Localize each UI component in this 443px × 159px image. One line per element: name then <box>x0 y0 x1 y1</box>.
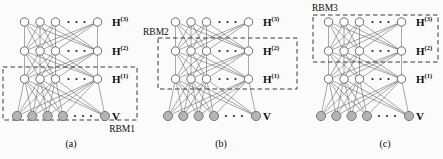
hidden-node <box>324 75 332 83</box>
ellipsis-dot <box>379 50 381 52</box>
hidden-node <box>202 47 210 55</box>
rbm-stacking-figure: H(3)H(2)H(1)VRBM1(a)H(3)H(2)H(1)VRBM2(b)… <box>0 0 443 159</box>
hidden-node <box>20 47 28 55</box>
rbm-label-a: RBM1 <box>109 124 135 134</box>
hidden-node <box>20 75 28 83</box>
hidden-node <box>171 47 179 55</box>
visible-node <box>58 111 67 120</box>
hidden-node <box>397 47 405 55</box>
ellipsis-dot <box>226 78 228 80</box>
visible-node <box>100 111 109 120</box>
ellipsis-dot <box>74 115 76 117</box>
ellipsis-dot <box>241 115 243 117</box>
hidden-node <box>324 47 332 55</box>
hidden-node <box>51 75 59 83</box>
ellipsis-dot <box>67 21 69 23</box>
hidden-node <box>355 47 363 55</box>
ellipsis-dot <box>75 78 77 80</box>
ellipsis-dot <box>225 115 227 117</box>
ellipsis-dot <box>75 21 77 23</box>
ellipsis-dot <box>371 78 373 80</box>
hidden-node <box>397 75 405 83</box>
hidden-node <box>171 75 179 83</box>
ellipsis-dot <box>234 21 236 23</box>
hidden-node <box>51 18 59 26</box>
panel-caption-c: (c) <box>379 138 390 150</box>
hidden-node <box>244 47 252 55</box>
visible-node <box>209 111 218 120</box>
figure-background <box>0 0 443 159</box>
hidden-node <box>36 18 44 26</box>
hidden-node <box>244 18 252 26</box>
ellipsis-dot <box>83 21 85 23</box>
rbm-label-b: RBM2 <box>143 27 169 37</box>
ellipsis-dot <box>233 115 235 117</box>
ellipsis-dot <box>226 21 228 23</box>
ellipsis-dot <box>378 115 380 117</box>
hidden-node <box>340 47 348 55</box>
ellipsis-dot <box>234 50 236 52</box>
layer-label-v-a: V <box>112 110 120 122</box>
hidden-node <box>20 18 28 26</box>
layer-label-v-b: V <box>263 110 271 122</box>
ellipsis-dot <box>226 50 228 52</box>
visible-node <box>12 111 21 120</box>
visible-node <box>362 111 371 120</box>
ellipsis-dot <box>234 78 236 80</box>
ellipsis-dot <box>371 21 373 23</box>
rbm-label-c: RBM3 <box>312 3 338 13</box>
visible-node <box>251 111 260 120</box>
ellipsis-dot <box>218 50 220 52</box>
hidden-node <box>324 18 332 26</box>
hidden-node <box>51 47 59 55</box>
ellipsis-dot <box>90 115 92 117</box>
ellipsis-dot <box>218 78 220 80</box>
visible-node <box>163 111 172 120</box>
hidden-node <box>202 75 210 83</box>
ellipsis-dot <box>387 78 389 80</box>
ellipsis-dot <box>83 50 85 52</box>
ellipsis-dot <box>387 50 389 52</box>
hidden-node <box>93 47 101 55</box>
ellipsis-dot <box>386 115 388 117</box>
hidden-node <box>187 47 195 55</box>
hidden-node <box>171 18 179 26</box>
visible-node <box>179 111 188 120</box>
hidden-node <box>340 18 348 26</box>
hidden-node <box>187 18 195 26</box>
ellipsis-dot <box>83 78 85 80</box>
ellipsis-dot <box>379 21 381 23</box>
dbn-rbm-diagram: H(3)H(2)H(1)VRBM1(a)H(3)H(2)H(1)VRBM2(b)… <box>0 0 443 159</box>
ellipsis-dot <box>67 50 69 52</box>
ellipsis-dot <box>394 115 396 117</box>
layer-label-v-c: V <box>416 110 424 122</box>
visible-node <box>316 111 325 120</box>
ellipsis-dot <box>371 50 373 52</box>
hidden-node <box>93 75 101 83</box>
hidden-node <box>36 75 44 83</box>
hidden-node <box>244 75 252 83</box>
visible-node <box>404 111 413 120</box>
hidden-node <box>340 75 348 83</box>
panel-caption-b: (b) <box>215 138 227 150</box>
hidden-node <box>93 18 101 26</box>
hidden-node <box>397 18 405 26</box>
hidden-node <box>355 18 363 26</box>
ellipsis-dot <box>82 115 84 117</box>
visible-node <box>332 111 341 120</box>
visible-node <box>28 111 37 120</box>
ellipsis-dot <box>75 50 77 52</box>
ellipsis-dot <box>387 21 389 23</box>
visible-node <box>194 111 203 120</box>
panel-caption-a: (a) <box>65 138 76 150</box>
hidden-node <box>36 47 44 55</box>
ellipsis-dot <box>67 78 69 80</box>
hidden-node <box>187 75 195 83</box>
visible-node <box>347 111 356 120</box>
ellipsis-dot <box>218 21 220 23</box>
visible-node <box>43 111 52 120</box>
ellipsis-dot <box>379 78 381 80</box>
hidden-node <box>355 75 363 83</box>
hidden-node <box>202 18 210 26</box>
